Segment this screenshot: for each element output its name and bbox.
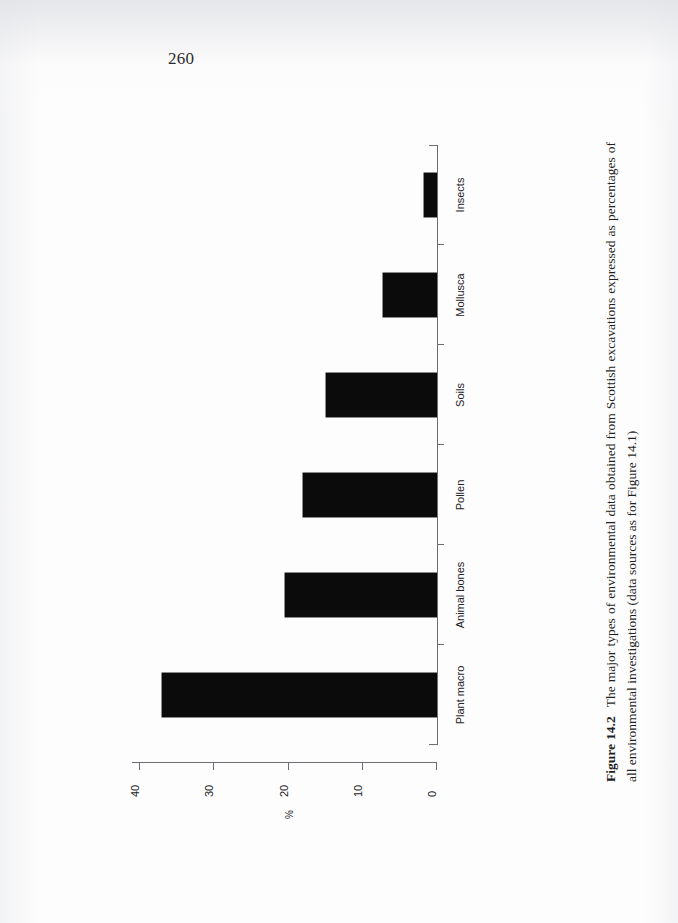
bars-layer: [124, 145, 437, 745]
category-label-animal-bones: Animal bones: [454, 562, 466, 629]
value-axis-tick-label: 30: [203, 785, 215, 797]
bar-mollusca: [383, 273, 437, 317]
category-axis-line: [437, 145, 438, 745]
category-axis-tick: [437, 644, 444, 645]
bar-chart: Plant macroAnimal bonesPollenSoilsMollus…: [124, 145, 554, 745]
value-axis-tick-label: 10: [352, 785, 364, 797]
bar-plant-macro: [162, 673, 437, 717]
bar-pollen: [303, 473, 437, 517]
category-axis-end-tick: [429, 744, 438, 745]
value-axis-tick: [362, 762, 363, 770]
category-label-mollusca: Mollusca: [454, 273, 466, 316]
category-label-pollen: Pollen: [454, 480, 466, 511]
figure-caption-label: Figure 14.2: [603, 716, 618, 782]
value-axis-tick: [139, 762, 140, 770]
scanned-book-page: 260 Plant macroAnimal bonesPollenSoilsMo…: [0, 0, 678, 923]
category-label-insects: Insects: [454, 178, 466, 213]
value-axis-tick-label: 0: [426, 791, 438, 797]
value-axis-tick: [288, 762, 289, 770]
value-axis-title: %: [284, 810, 295, 819]
value-axis-line: [132, 762, 437, 763]
bar-animal-bones: [285, 573, 437, 617]
category-axis-tick: [437, 544, 444, 545]
figure-caption-block: Figure 14.2The major types of environmen…: [600, 142, 656, 782]
value-axis-tick: [213, 762, 214, 770]
category-axis-tick: [437, 244, 444, 245]
category-axis-tick: [437, 444, 444, 445]
bar-soils: [326, 373, 437, 417]
value-axis-tick: [436, 762, 437, 770]
figure-14-2: Plant macroAnimal bonesPollenSoilsMollus…: [0, 0, 678, 923]
value-axis-tick-label: 40: [129, 785, 141, 797]
bar-insects: [424, 173, 437, 217]
category-label-soils: Soils: [454, 383, 466, 407]
category-axis-end-tick: [429, 145, 438, 146]
value-axis-tick-label: 20: [278, 785, 290, 797]
category-label-plant-macro: Plant macro: [454, 666, 466, 725]
figure-caption: Figure 14.2The major types of environmen…: [600, 142, 642, 782]
category-axis-tick: [437, 344, 444, 345]
figure-caption-text: The major types of environmental data ob…: [603, 142, 639, 782]
